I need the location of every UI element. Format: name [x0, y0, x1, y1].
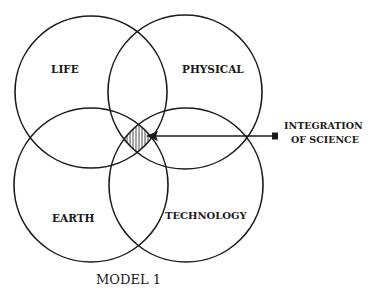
label-earth: EARTH [52, 212, 95, 224]
circle-earth [14, 108, 168, 262]
circle-technology [109, 108, 263, 262]
callout-line1: INTEGRATION [284, 120, 363, 131]
venn-diagram: LIFE PHYSICAL EARTH TECHNOLOGY INTEGRATI… [0, 0, 381, 291]
label-physical: PHYSICAL [182, 63, 244, 75]
circle-physical [108, 15, 262, 169]
diagram-title: MODEL 1 [96, 272, 161, 287]
arrow-icon [146, 131, 278, 141]
label-technology: TECHNOLOGY [165, 210, 248, 221]
label-life: LIFE [51, 63, 79, 75]
callout-line2: OF SCIENCE [291, 134, 359, 145]
circle-life [15, 16, 167, 168]
